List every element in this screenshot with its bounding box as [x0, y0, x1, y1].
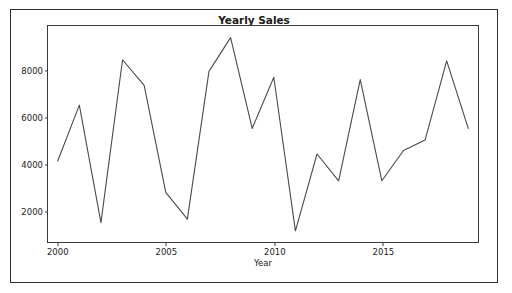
x-tick-mark	[166, 242, 167, 246]
line-chart-svg	[48, 26, 478, 242]
y-tick-mark	[45, 164, 49, 165]
figure-frame: Yearly Sales 200040006000800020002005201…	[10, 9, 498, 283]
x-tick-label: 2000	[47, 247, 69, 257]
y-tick-label: 4000	[21, 160, 43, 170]
x-tick-mark	[57, 242, 58, 246]
x-tick-label: 2015	[373, 247, 395, 257]
y-tick-label: 2000	[21, 207, 43, 217]
y-tick-label: 6000	[21, 113, 43, 123]
x-tick-label: 2005	[155, 247, 177, 257]
x-tick-label: 2010	[264, 247, 286, 257]
y-tick-mark	[45, 211, 49, 212]
x-tick-mark	[274, 242, 275, 246]
plot-area: 20004000600080002000200520102015Year	[47, 25, 479, 243]
x-axis-label: Year	[254, 258, 272, 268]
y-tick-mark	[45, 70, 49, 71]
data-series-line	[58, 38, 469, 231]
x-tick-mark	[383, 242, 384, 246]
y-tick-label: 8000	[21, 66, 43, 76]
top-clipped-strip	[0, 0, 512, 9]
y-tick-mark	[45, 117, 49, 118]
